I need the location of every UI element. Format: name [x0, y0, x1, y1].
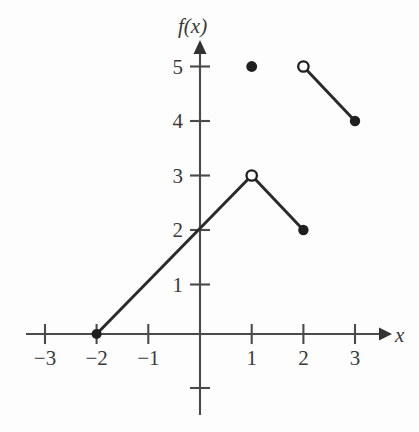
y-axis-arrowhead [194, 40, 207, 54]
x-tick-label--1: −1 [137, 348, 159, 369]
y-tick-label-1: 1 [167, 274, 183, 295]
x-tick-label--3: −3 [34, 348, 56, 369]
isolated-point-1-5 [246, 61, 257, 72]
closed-point-neg2-0 [92, 329, 102, 339]
y-tick-label-5: 5 [167, 56, 183, 77]
open-point-2-5 [298, 61, 308, 71]
y-tick-label-3: 3 [167, 165, 183, 186]
segment-rising [97, 176, 252, 335]
x-axis-label: x [395, 325, 404, 346]
x-axis-group [26, 328, 392, 341]
open-point-1-3 [247, 170, 257, 180]
segment-falling [252, 176, 304, 231]
y-axis-label: f(x) [178, 16, 207, 37]
x-tick-label-1: 1 [246, 348, 257, 369]
y-tick-label-4: 4 [167, 111, 183, 132]
y-tick-label-2: 2 [167, 220, 183, 241]
function-curve [97, 67, 355, 335]
function-graph-figure: f(x) x −3 −2 −1 1 2 3 1 2 3 4 5 [0, 0, 419, 432]
closed-point-3-4 [350, 116, 360, 126]
segment-upper [303, 67, 355, 122]
x-tick-label--2: −2 [85, 348, 107, 369]
closed-point-2-2 [298, 225, 308, 235]
x-tick-label-3: 3 [350, 348, 361, 369]
x-axis-arrowhead [379, 328, 392, 341]
x-tick-label-2: 2 [298, 348, 309, 369]
